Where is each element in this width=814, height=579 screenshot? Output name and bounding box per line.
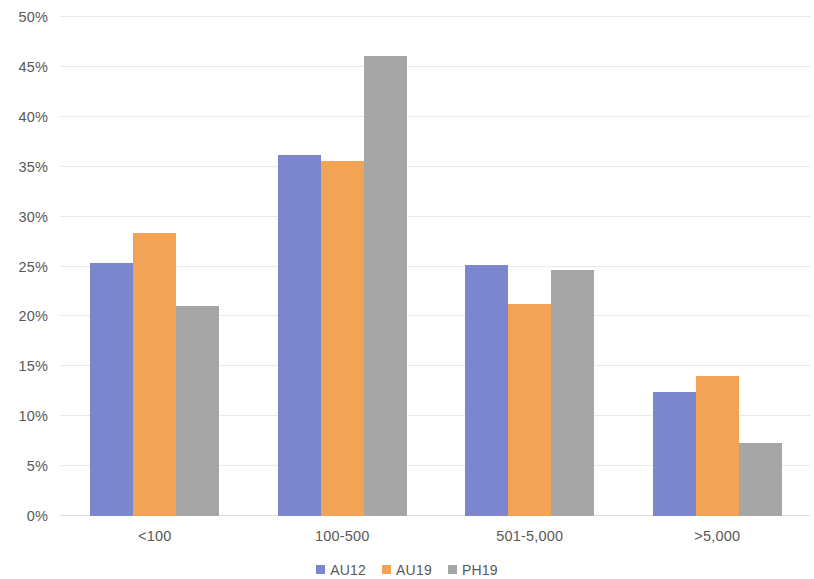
y-axis-tick-label: 5%: [27, 458, 48, 474]
legend-label: PH19: [462, 562, 498, 578]
y-axis-tick-label: 35%: [18, 159, 48, 175]
gridline: [60, 166, 810, 167]
x-axis-tick-label: 100-500: [315, 528, 370, 544]
gridline: [60, 116, 810, 117]
y-axis-tick-label: 50%: [18, 9, 48, 25]
y-axis-tick-label: 45%: [18, 59, 48, 75]
bar-chart: 0%5%10%15%20%25%30%35%40%45%50% <100100-…: [0, 0, 814, 579]
bar: [653, 392, 696, 516]
y-axis-tick-label: 40%: [18, 109, 48, 125]
bar: [90, 263, 133, 516]
bar: [364, 56, 407, 516]
y-axis: 0%5%10%15%20%25%30%35%40%45%50%: [0, 0, 60, 579]
legend-swatch-icon: [382, 565, 391, 574]
x-axis-tick-label: 501-5,000: [496, 528, 563, 544]
bar: [508, 304, 551, 516]
y-axis-tick-label: 20%: [18, 308, 48, 324]
y-axis-tick-label: 25%: [18, 259, 48, 275]
bar: [321, 161, 364, 516]
x-axis: <100100-500501-5,000>5,000: [60, 528, 810, 552]
gridline: [60, 16, 810, 17]
gridline: [60, 66, 810, 67]
y-axis-tick-label: 0%: [27, 508, 48, 524]
bar: [278, 155, 321, 516]
x-axis-tick-label: <100: [138, 528, 171, 544]
bar: [133, 233, 176, 516]
legend-label: AU19: [396, 562, 432, 578]
chart-legend: AU12AU19PH19: [0, 560, 814, 579]
legend-item[interactable]: AU12: [316, 562, 366, 578]
legend-label: AU12: [330, 562, 366, 578]
bar: [176, 306, 219, 516]
bar: [465, 265, 508, 516]
legend-item[interactable]: PH19: [448, 562, 498, 578]
bar: [739, 443, 782, 516]
gridline: [60, 216, 810, 217]
y-axis-tick-label: 15%: [18, 358, 48, 374]
legend-item[interactable]: AU19: [382, 562, 432, 578]
legend-swatch-icon: [316, 565, 325, 574]
plot-area: [60, 17, 810, 516]
legend-swatch-icon: [448, 565, 457, 574]
bar: [551, 270, 594, 517]
y-axis-tick-label: 10%: [18, 408, 48, 424]
y-axis-tick-label: 30%: [18, 209, 48, 225]
x-axis-tick-label: >5,000: [694, 528, 740, 544]
bar: [696, 376, 739, 516]
